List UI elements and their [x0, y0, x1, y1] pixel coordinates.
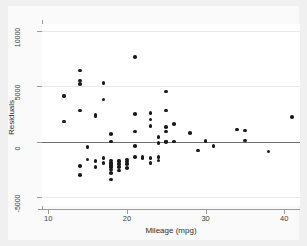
data-point — [133, 130, 137, 134]
data-point — [125, 166, 129, 170]
data-point — [164, 140, 168, 144]
data-point — [133, 112, 137, 116]
data-point — [102, 161, 106, 165]
data-point — [78, 82, 82, 86]
data-point — [133, 155, 137, 159]
data-point — [157, 141, 161, 145]
data-point — [102, 156, 106, 160]
data-point — [196, 149, 200, 153]
y-tick-label-5000: 5000 — [0, 81, 35, 91]
data-point — [86, 158, 90, 162]
data-point — [109, 178, 113, 182]
data-point — [243, 139, 247, 143]
y-tick-0 — [37, 142, 42, 143]
data-point — [86, 145, 90, 149]
data-point — [125, 162, 129, 166]
data-point — [164, 90, 168, 94]
data-point — [109, 132, 113, 136]
data-point — [157, 159, 161, 163]
data-point — [243, 129, 247, 133]
data-point — [133, 144, 137, 148]
x-tick-10 — [48, 209, 49, 214]
data-point — [267, 150, 271, 154]
chart-figure: Residuals 10000 5000 0 -5000 10 20 30 40… — [0, 0, 307, 246]
data-point — [102, 81, 106, 85]
data-point — [109, 171, 113, 175]
x-tick-label-30: 30 — [186, 214, 226, 223]
y-tick-10000 — [37, 31, 42, 32]
data-point — [149, 156, 153, 160]
data-point — [149, 161, 153, 165]
data-point — [62, 120, 66, 124]
data-point — [94, 165, 98, 169]
data-point — [94, 160, 98, 164]
x-axis-line — [38, 209, 300, 210]
data-point — [149, 118, 153, 122]
data-point — [157, 135, 161, 139]
data-point — [204, 140, 208, 144]
data-point — [102, 98, 106, 102]
y-tick-5000 — [37, 86, 42, 87]
data-point — [117, 169, 121, 173]
data-point — [78, 109, 82, 113]
data-point — [133, 55, 137, 59]
y-axis-title-text: Residuals — [8, 99, 17, 134]
x-tick-label-20: 20 — [107, 214, 147, 223]
data-point — [78, 69, 82, 73]
x-axis-title: Mileage (mpg) — [42, 226, 300, 235]
y-tick-label-0: 0 — [0, 137, 35, 147]
data-point — [235, 128, 239, 132]
data-point — [172, 122, 176, 126]
data-point — [78, 164, 82, 168]
gridline-5000 — [42, 86, 300, 87]
y-tick-label-neg5000: -5000 — [0, 192, 35, 202]
x-tick-label-40: 40 — [264, 214, 304, 223]
y-tick--5000 — [37, 197, 42, 198]
data-point — [78, 173, 82, 177]
gridline--5000 — [42, 197, 300, 198]
data-point — [149, 124, 153, 128]
data-point — [164, 109, 168, 113]
data-point — [212, 144, 216, 148]
data-point — [188, 131, 192, 135]
data-point — [164, 130, 168, 134]
x-tick-label-10: 10 — [28, 214, 68, 223]
data-point — [172, 140, 176, 144]
data-point — [141, 156, 145, 160]
data-point — [94, 114, 98, 118]
plot-area — [42, 24, 300, 206]
y-tick-label-10000: 10000 — [0, 26, 35, 36]
x-tick-20 — [127, 209, 128, 214]
data-point — [62, 94, 66, 98]
gridline-10000 — [42, 31, 300, 32]
data-point — [290, 115, 294, 119]
zero-reference-line — [42, 142, 300, 143]
data-point — [149, 111, 153, 115]
x-tick-30 — [206, 209, 207, 214]
data-point — [109, 140, 113, 144]
x-tick-40 — [284, 209, 285, 214]
data-point — [164, 125, 168, 129]
